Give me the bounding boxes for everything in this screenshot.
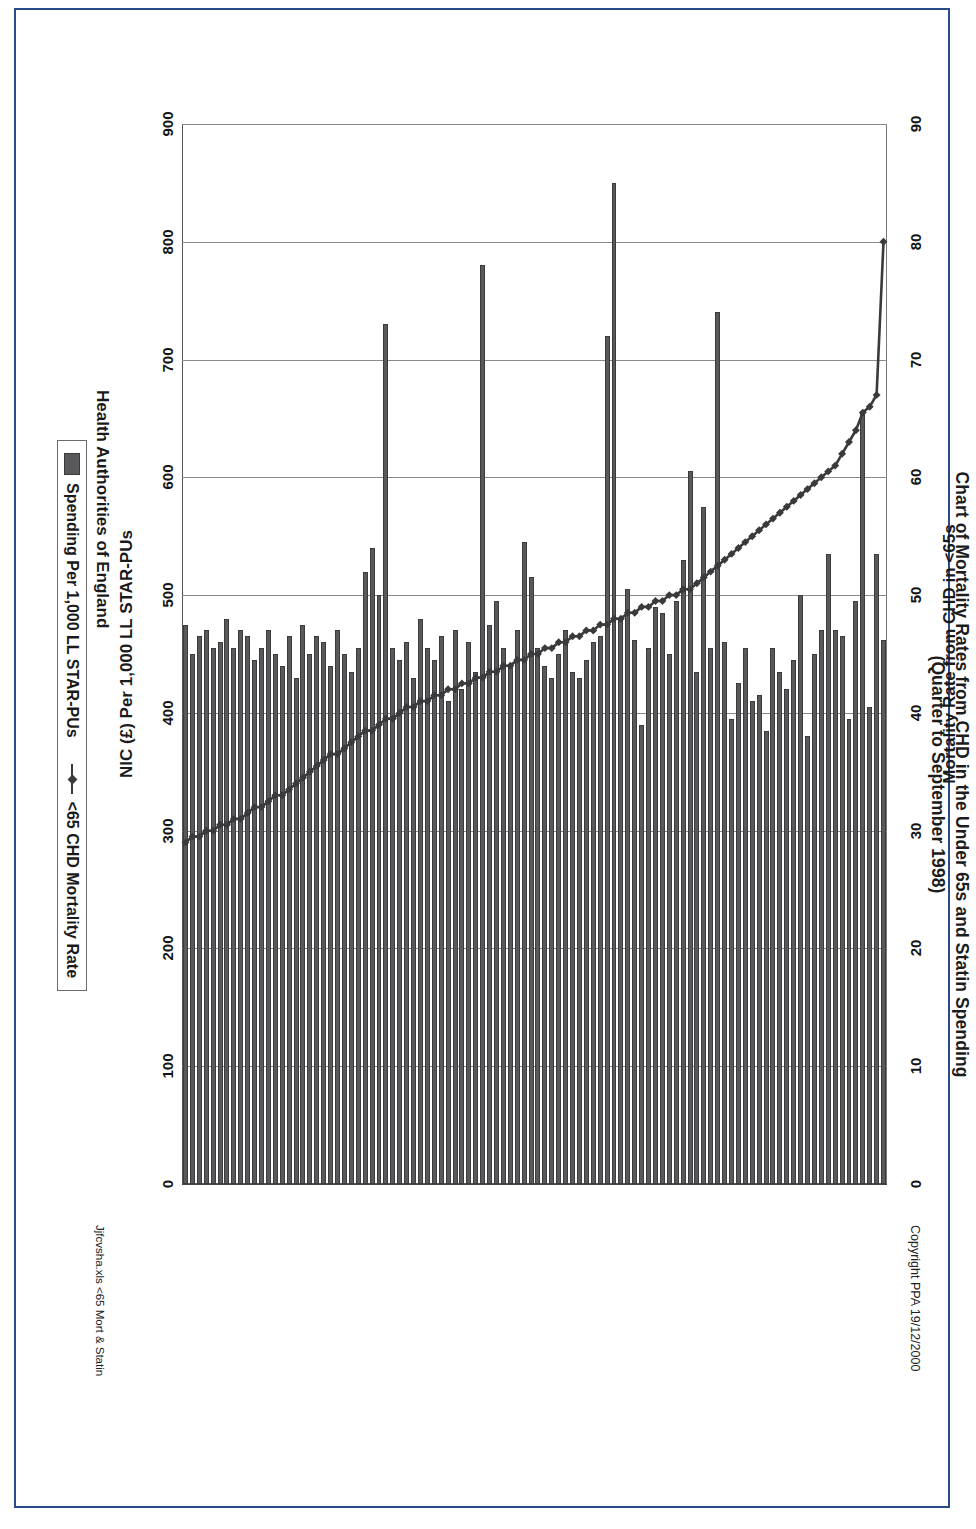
axis-tick-label: 0 xyxy=(159,1180,176,1188)
axis-tick-label: 300 xyxy=(159,818,176,843)
axis-tick-label: 90 xyxy=(907,116,924,133)
plot-area xyxy=(182,124,887,1184)
primary-axis-ticks: 0100200300400500600700800900 xyxy=(140,124,180,1184)
legend-label-mortality: <65 CHD Mortality Rate xyxy=(63,802,81,979)
category-axis-title: Health Authorities of England xyxy=(92,390,112,628)
axis-tick-label: 900 xyxy=(159,111,176,136)
legend-item-spending: Spending Per 1,000 LL STAR-PUs xyxy=(63,453,81,738)
axis-tick-label: 400 xyxy=(159,700,176,725)
axis-tick-label: 700 xyxy=(159,347,176,372)
axis-tick-label: 500 xyxy=(159,583,176,608)
page-frame: Chart of Mortality Rates from CHD in the… xyxy=(14,8,950,1508)
legend-item-mortality: <65 CHD Mortality Rate xyxy=(63,764,81,979)
chart-stage: Chart of Mortality Rates from CHD in the… xyxy=(16,10,976,1529)
primary-axis-title: NIC (£) Per 1,000 LL STAR-PUs xyxy=(117,124,137,1184)
secondary-axis-ticks: 0102030405060708090 xyxy=(890,124,930,1184)
axis-tick-label: 200 xyxy=(159,936,176,961)
axis-tick-label: 70 xyxy=(907,351,924,368)
axis-tick-label: 100 xyxy=(159,1054,176,1079)
copyright-text: Copyright PPA 19/12/2000 xyxy=(908,1225,922,1371)
chart-legend: Spending Per 1,000 LL STAR-PUs <65 CHD M… xyxy=(57,440,87,991)
axis-tick-label: 600 xyxy=(159,465,176,490)
secondary-axis-title: Mortality Rate from CHD in <65s xyxy=(940,124,960,1184)
axis-tick-label: 30 xyxy=(907,822,924,839)
axis-tick-label: 40 xyxy=(907,705,924,722)
mortality-line xyxy=(186,242,884,843)
line-marker-icon xyxy=(65,764,79,794)
axis-tick-label: 10 xyxy=(907,1058,924,1075)
line-marker xyxy=(880,238,888,246)
source-file-note: Jjfcvsha.xls <65 Mort & Statin xyxy=(94,1225,106,1376)
axis-tick-label: 800 xyxy=(159,229,176,254)
line-series xyxy=(182,124,887,1184)
axis-tick-label: 80 xyxy=(907,233,924,250)
gridline xyxy=(182,1184,887,1185)
legend-label-spending: Spending Per 1,000 LL STAR-PUs xyxy=(63,483,81,738)
axis-tick-label: 0 xyxy=(907,1180,924,1188)
bar-swatch-icon xyxy=(64,453,80,475)
axis-tick-label: 60 xyxy=(907,469,924,486)
axis-tick-label: 50 xyxy=(907,587,924,604)
axis-tick-label: 20 xyxy=(907,940,924,957)
